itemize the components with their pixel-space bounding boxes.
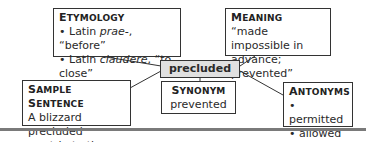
sample-sentence-box: SAMPLE SENTENCE A blizzard precluded our… (22, 80, 131, 126)
synonym-value: prevented (167, 98, 230, 112)
sample-sentence-line: A blizzard precluded (28, 111, 125, 139)
center-word: precluded (160, 60, 240, 78)
etymology-item: • Latin claudere, “to close” (59, 53, 175, 81)
synonym-title: SYNONYM (167, 84, 230, 98)
etymology-title: ETYMOLOGY (59, 11, 175, 25)
sample-sentence-line: our trip to the beach. (28, 139, 125, 142)
meaning-box: MEANING “made impossible in advance; pre… (225, 8, 331, 56)
meaning-line: “made impossible in (231, 25, 325, 53)
etymology-item: • Latin prae-, “before” (59, 25, 175, 53)
antonym-item: • permitted (289, 99, 347, 127)
antonyms-box: ANTONYMS • permitted • allowed (283, 82, 353, 127)
meaning-line: advance; prevented” (231, 53, 325, 81)
antonyms-title: ANTONYMS (289, 85, 347, 99)
meaning-title: MEANING (231, 11, 325, 25)
etymology-box: ETYMOLOGY • Latin prae-, “before” • Lati… (53, 8, 181, 57)
synonym-box: SYNONYM prevented (161, 81, 236, 114)
bottom-divider (0, 128, 366, 131)
sample-sentence-title: SAMPLE SENTENCE (28, 83, 125, 111)
